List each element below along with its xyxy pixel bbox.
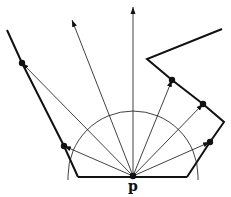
hit-point-dot [200, 101, 206, 107]
polygon-right-edge [147, 29, 224, 177]
polygon-left-edge [7, 30, 78, 177]
hit-point-dot [61, 143, 67, 149]
polygon-boundary [7, 29, 224, 177]
hit-point-dot [19, 60, 25, 66]
ray-arrow [133, 104, 203, 176]
visibility-diagram [0, 0, 231, 197]
ray-group [22, 7, 210, 176]
point-label-p: p [128, 178, 138, 194]
ray-arrow [22, 63, 133, 176]
hit-point-dot [169, 77, 175, 83]
hit-point-dot [207, 139, 213, 145]
hit-point-group [19, 60, 213, 179]
ray-arrow [72, 20, 133, 176]
